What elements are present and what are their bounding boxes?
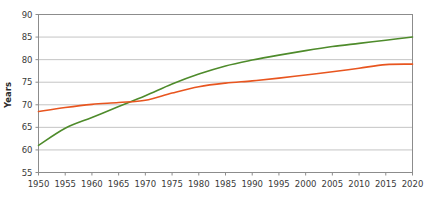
y-tick-label: 75 xyxy=(22,77,33,87)
x-tick-label: 1965 xyxy=(108,179,130,189)
y-tick-label: 55 xyxy=(22,168,33,178)
y-tick-label: 65 xyxy=(22,122,33,132)
x-tick-label: 2020 xyxy=(402,179,424,189)
x-tick-label: 2000 xyxy=(295,179,317,189)
line-chart: 5560657075808590 19501955196019651970197… xyxy=(0,0,431,199)
x-tick-label: 1985 xyxy=(215,179,237,189)
y-tick-label: 70 xyxy=(22,100,33,110)
x-tick-label: 1960 xyxy=(81,179,103,189)
x-tick-label: 1980 xyxy=(188,179,210,189)
x-tick-label: 2005 xyxy=(322,179,344,189)
y-axis-labels: 5560657075808590 xyxy=(22,10,33,178)
x-tick-label: 1970 xyxy=(135,179,157,189)
x-tick-label: 1975 xyxy=(161,179,183,189)
x-tick-label: 1995 xyxy=(268,179,290,189)
x-tick-label: 1990 xyxy=(241,179,263,189)
y-axis-title-text: Years xyxy=(3,82,13,109)
x-tick-label: 1950 xyxy=(28,179,50,189)
y-tick-label: 85 xyxy=(22,32,33,42)
y-axis-title: Years xyxy=(3,82,13,109)
x-tick-label: 2010 xyxy=(348,179,370,189)
x-tick-label: 2015 xyxy=(375,179,397,189)
chart-canvas: 5560657075808590 19501955196019651970197… xyxy=(0,0,431,199)
x-tick-label: 1955 xyxy=(54,179,76,189)
y-tick-label: 90 xyxy=(22,10,33,20)
plot-background xyxy=(39,15,413,173)
y-tick-label: 60 xyxy=(22,145,33,155)
x-axis-labels: 1950195519601965197019751980198519901995… xyxy=(28,179,424,189)
y-tick-label: 80 xyxy=(22,55,33,65)
